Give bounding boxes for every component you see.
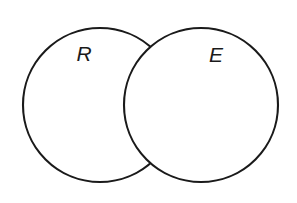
set-label-e: E: [209, 43, 224, 66]
venn-diagram: R E: [0, 0, 297, 203]
set-circle-e[interactable]: [124, 28, 278, 182]
set-label-r: R: [76, 42, 91, 65]
venn-diagram-canvas: R E: [0, 0, 297, 203]
